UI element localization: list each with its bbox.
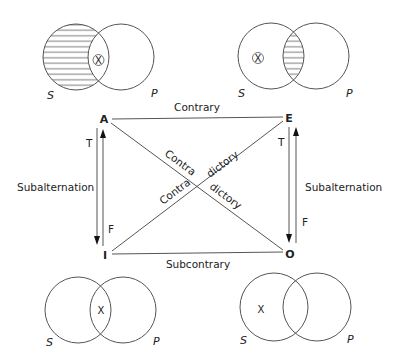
- left-arrowhead-up-icon: [100, 129, 106, 138]
- venn-a-x-mark: X: [95, 55, 102, 66]
- left-t-label: T: [85, 137, 93, 149]
- venn-diagram-i: X S P: [45, 277, 160, 349]
- contradictory-label-2b: dictory: [208, 180, 244, 211]
- venn-diagram-a: X S P: [43, 24, 158, 102]
- vertex-e: E: [285, 112, 293, 125]
- subcontrary-line: [112, 252, 283, 254]
- venn-a-shaded-region: [43, 24, 99, 90]
- venn-e-p-label: P: [346, 87, 353, 100]
- vertex-i: I: [103, 249, 107, 262]
- vertex-a: A: [100, 113, 109, 126]
- venn-i-p-label: P: [153, 335, 160, 348]
- right-arrowhead-up-icon: [293, 127, 299, 136]
- venn-o-s-label: S: [240, 334, 247, 347]
- venn-o-p-label: P: [347, 333, 354, 346]
- contradictory-label-1a: Contra: [163, 147, 198, 178]
- square: A E I O Contrary Subcontrary Contra dict…: [17, 101, 382, 270]
- right-subalternation-label: Subalternation: [305, 181, 382, 193]
- right-t-label: T: [277, 136, 285, 148]
- vertex-o: O: [285, 248, 294, 261]
- contradictory-label-1b: dictory: [204, 148, 240, 180]
- subcontrary-label: Subcontrary: [166, 258, 230, 270]
- venn-e-shaded-region: [283, 32, 304, 80]
- contradictory-label-2a: Contra: [157, 176, 192, 207]
- left-arrowhead-down-icon: [94, 236, 100, 245]
- venn-a-p-label: P: [151, 87, 158, 100]
- venn-a-s-label: S: [47, 89, 54, 102]
- contrary-label: Contrary: [174, 101, 220, 113]
- venn-e-x-mark: X: [255, 53, 262, 64]
- right-f-label: F: [302, 216, 308, 228]
- venn-i-s-label: S: [46, 336, 53, 349]
- venn-o-circle-s: [240, 273, 308, 341]
- left-f-label: F: [108, 223, 114, 235]
- venn-diagram-o: X S P: [240, 273, 354, 347]
- right-arrowhead-down-icon: [286, 234, 292, 243]
- venn-i-x-mark: X: [98, 305, 105, 316]
- venn-e-s-label: S: [238, 87, 245, 100]
- left-subalternation-label: Subalternation: [17, 181, 94, 193]
- square-of-opposition-diagram: X S P X S P A E I O Contrary Subcontrary…: [0, 0, 397, 361]
- venn-diagram-e: X S P: [238, 23, 353, 100]
- venn-o-x-mark: X: [258, 304, 265, 315]
- venn-o-circle-p: [283, 273, 351, 341]
- contrary-line: [112, 117, 283, 119]
